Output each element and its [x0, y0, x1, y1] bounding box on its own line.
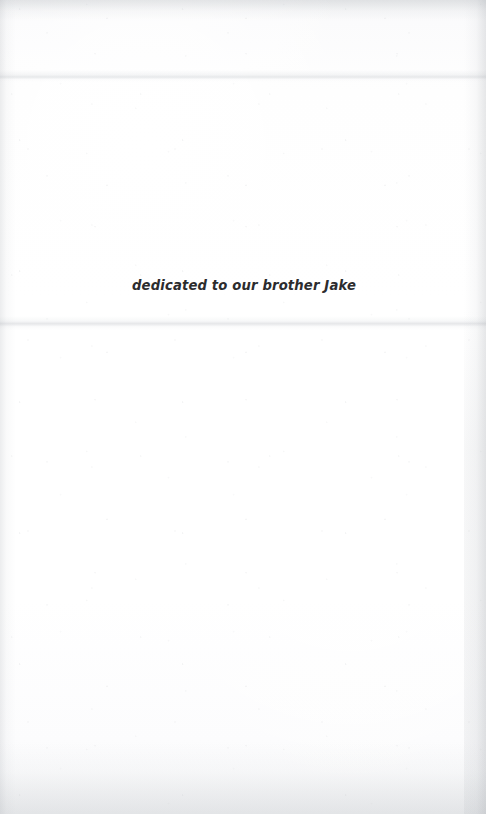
paper-crease-upper [0, 70, 486, 82]
scan-edge-shadow-top [0, 0, 486, 20]
scan-edge-shadow-left [0, 0, 16, 814]
paper-crease-lower [0, 316, 486, 330]
dedication-text: dedicated to our brother Jake [132, 277, 356, 295]
scan-edge-shadow-bottom [0, 742, 486, 814]
dedication-block: dedicated to our brother Jake [0, 277, 486, 295]
paper-grain-texture [0, 0, 486, 814]
scan-edge-shadow-right [464, 0, 486, 814]
scanned-page: dedicated to our brother Jake [0, 0, 486, 814]
